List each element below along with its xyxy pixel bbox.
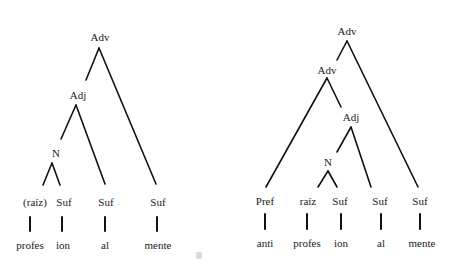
morph-label-suf-1: Suf (332, 195, 347, 207)
morph-label-raiz: raíz (300, 195, 316, 207)
branch-n-to-suf-ion-r (328, 171, 337, 187)
morph-label-suf-2: Suf (372, 195, 387, 207)
node-adv-inner: Adv (318, 64, 337, 76)
morph-label-pref: Pref (256, 195, 274, 207)
branch-adj-to-suf-al (76, 105, 105, 184)
node-adj: Adj (343, 111, 360, 123)
tree-lines (0, 0, 460, 276)
branch-adj-to-suf-al-r (351, 127, 371, 187)
morph-label-suf-3: Suf (412, 195, 427, 207)
node-adj: Adj (70, 89, 87, 101)
branch-adv2-to-adj (327, 78, 341, 107)
node-adv: Adv (91, 31, 110, 43)
morpheme-al: al (101, 239, 109, 251)
branch-n-to-raiz-r (318, 171, 328, 187)
node-adv-root: Adv (338, 25, 357, 37)
scan-artifact (196, 252, 202, 259)
morpheme-al: al (377, 237, 385, 249)
morpheme-profes: profes (293, 237, 321, 249)
morpheme-mente: mente (409, 237, 436, 249)
branch-adv-to-adv2 (337, 41, 347, 60)
morpheme-ion: ion (334, 237, 348, 249)
branch-n-to-raiz (43, 163, 52, 185)
morph-label-raiz: (raíz) (23, 196, 47, 208)
branch-n-to-suf-ion (52, 163, 60, 185)
branch-adj-to-n (61, 105, 76, 139)
morpheme-ion: ion (56, 239, 70, 251)
morph-label-suf-3: Suf (150, 196, 165, 208)
morpheme-mente: mente (145, 239, 172, 251)
node-n: N (324, 156, 332, 168)
branch-adj-to-n-r (337, 127, 351, 152)
morph-label-suf-1: Suf (56, 196, 71, 208)
branch-adv-to-adj (86, 48, 99, 80)
morph-label-suf-2: Suf (98, 196, 113, 208)
node-n: N (52, 147, 60, 159)
branch-adv2-to-pref (266, 78, 327, 187)
morpheme-anti: anti (257, 237, 274, 249)
branch-adv-to-suf-mente (99, 48, 156, 184)
morpheme-profes: profes (16, 239, 44, 251)
